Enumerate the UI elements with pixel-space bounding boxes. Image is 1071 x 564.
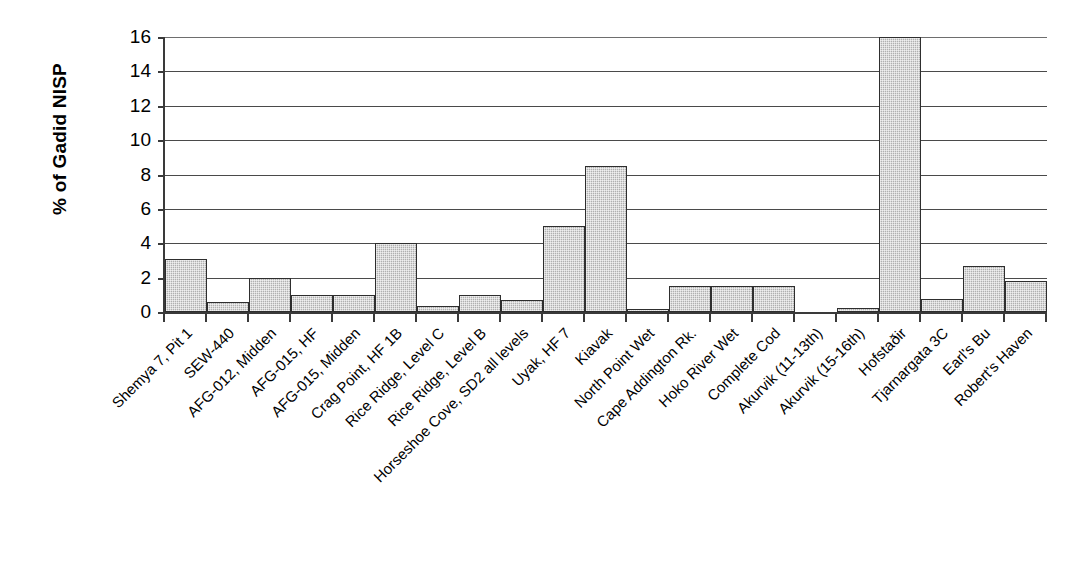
- y-tick-label: 8: [107, 165, 151, 184]
- y-tick-label: 10: [107, 130, 151, 149]
- x-tick-mark: [667, 313, 669, 322]
- x-tick-mark: [415, 313, 417, 322]
- x-tick-mark: [793, 313, 795, 322]
- x-tick-mark: [961, 313, 963, 322]
- bar: [375, 243, 417, 312]
- x-tick-mark: [541, 313, 543, 322]
- x-tick-mark: [331, 313, 333, 322]
- y-tick-mark: [158, 37, 165, 39]
- bar: [543, 226, 585, 312]
- y-tick-label: 12: [107, 96, 151, 115]
- x-tick-mark: [835, 313, 837, 322]
- x-tick-mark: [1045, 313, 1047, 322]
- bar: [249, 278, 291, 312]
- y-tick-mark: [158, 106, 165, 108]
- y-tick-label: 2: [107, 268, 151, 287]
- x-tick-mark: [457, 313, 459, 322]
- y-tick-label: 16: [107, 27, 151, 46]
- bar: [879, 37, 921, 312]
- bar: [837, 308, 879, 312]
- bar: [459, 295, 501, 312]
- y-tick-label: 0: [107, 302, 151, 321]
- y-tick-mark: [158, 140, 165, 142]
- x-tick-mark: [499, 313, 501, 322]
- x-axis-tick-labels: Shemya 7, Pit 1SEW-440AFG-012, MiddenAFG…: [163, 325, 1047, 525]
- bar: [417, 306, 459, 312]
- bar: [711, 286, 753, 312]
- y-tick-mark: [158, 175, 165, 177]
- bar: [585, 166, 627, 312]
- bar: [921, 299, 963, 312]
- x-tick-mark: [625, 313, 627, 322]
- y-tick-mark: [158, 209, 165, 211]
- bar: [291, 295, 333, 312]
- x-tick-label-text: Robert's Haven: [951, 325, 1035, 409]
- x-tick-mark: [373, 313, 375, 322]
- x-tick-marks-group: [163, 313, 1047, 323]
- x-tick-mark: [1003, 313, 1005, 322]
- bar: [963, 266, 1005, 312]
- y-tick-label: 4: [107, 233, 151, 252]
- x-tick-mark: [205, 313, 207, 322]
- bar: [501, 300, 543, 312]
- bar-chart-figure: % of Gadid NISP 0246810121416 Shemya 7, …: [0, 0, 1071, 564]
- y-tick-mark: [158, 278, 165, 280]
- x-tick-mark: [289, 313, 291, 322]
- y-axis-title: % of Gadid NISP: [49, 24, 71, 254]
- y-tick-label: 6: [107, 199, 151, 218]
- x-tick-mark: [709, 313, 711, 322]
- x-tick-mark: [163, 313, 165, 322]
- x-tick-mark: [583, 313, 585, 322]
- y-tick-mark: [158, 71, 165, 73]
- plot-area: 0246810121416: [163, 37, 1047, 314]
- bar: [669, 286, 711, 312]
- bar: [1005, 281, 1047, 312]
- y-tick-label: 14: [107, 61, 151, 80]
- bar: [627, 309, 669, 312]
- x-tick-mark: [919, 313, 921, 322]
- x-tick-mark: [877, 313, 879, 322]
- bar: [207, 302, 249, 312]
- bar: [333, 295, 375, 312]
- y-tick-mark: [158, 243, 165, 245]
- bars-group: [165, 37, 1047, 312]
- bar: [165, 259, 207, 312]
- x-tick-mark: [751, 313, 753, 322]
- x-tick-mark: [247, 313, 249, 322]
- bar: [753, 286, 795, 312]
